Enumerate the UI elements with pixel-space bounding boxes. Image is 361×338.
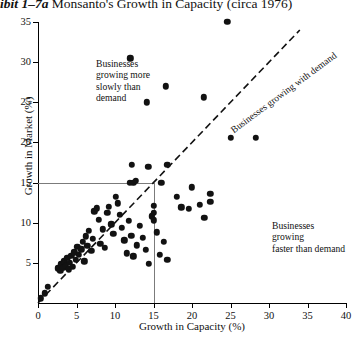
y-tick-label-35: 35 xyxy=(21,17,32,28)
x-axis-title: Growth in Capacity (%) xyxy=(38,320,346,332)
annotation-faster-than-demand: Businesses growing faster than demand xyxy=(272,220,346,254)
x-tick-20 xyxy=(192,303,193,308)
y-tick-35 xyxy=(33,22,38,23)
figure-exhibit-number: ibit 1–7a xyxy=(0,0,48,11)
x-tick-5 xyxy=(77,303,78,308)
y-tick-5 xyxy=(33,263,38,264)
y-axis-title: Growth in Market (%) xyxy=(22,71,34,221)
plot-area: 5101520253035 0510152025303540 Businesse… xyxy=(38,22,346,303)
x-tick-0 xyxy=(38,303,39,308)
y-tick-30 xyxy=(33,62,38,63)
chart-figure: ibit 1–7a Monsanto's Growth in Capacity … xyxy=(0,0,361,338)
annotation-slower-than-demand: Businesses growing more slowly than dema… xyxy=(96,58,150,104)
figure-title: ibit 1–7a Monsanto's Growth in Capacity … xyxy=(0,0,361,12)
x-tick-15 xyxy=(154,303,155,308)
x-tick-35 xyxy=(308,303,309,308)
figure-title-text: Monsanto's Growth in Capacity (circa 197… xyxy=(52,0,293,11)
y-tick-10 xyxy=(33,223,38,224)
y-tick-label-5: 5 xyxy=(26,258,31,269)
y-tick-label-30: 30 xyxy=(21,57,32,68)
x-tick-30 xyxy=(269,303,270,308)
x-tick-25 xyxy=(231,303,232,308)
x-tick-10 xyxy=(115,303,116,308)
x-tick-40 xyxy=(346,303,347,308)
